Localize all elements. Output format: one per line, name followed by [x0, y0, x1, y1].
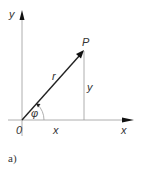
radius-label: r [52, 70, 57, 82]
y-axis-label: y [8, 8, 16, 20]
origin-label: 0 [16, 124, 23, 136]
x-projection-label: x [52, 124, 59, 136]
figure-caption: a) [8, 152, 17, 165]
x-axis-arrowhead [122, 118, 134, 123]
polar-coordinate-diagram: y P r y φ 0 x x a) [0, 0, 143, 178]
x-axis-label: x [120, 124, 127, 136]
y-axis-arrowhead [20, 10, 25, 20]
point-label: P [82, 36, 90, 48]
angle-label: φ [31, 107, 38, 119]
y-projection-label: y [86, 81, 94, 93]
